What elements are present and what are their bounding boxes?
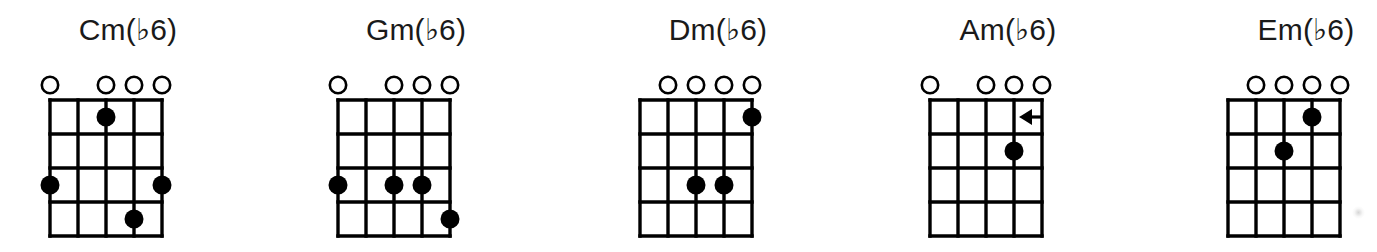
chord-diagram-card: Cm(♭6) [38, 0, 218, 252]
chord-name-label: Am(♭6) [918, 12, 1098, 47]
fretted-note-dot [743, 108, 762, 127]
open-string-circle-icon [660, 77, 676, 93]
fretted-note-dot [329, 176, 348, 195]
slide-arrow-icon [1019, 109, 1042, 125]
fretboard-diagram [1216, 68, 1377, 248]
arrow-head [1019, 109, 1032, 125]
fretted-note-dot [97, 108, 116, 127]
fretted-note-dot [1005, 142, 1024, 161]
open-string-circle-icon [414, 77, 430, 93]
open-string-circle-icon [716, 77, 732, 93]
open-string-circle-icon [1034, 77, 1050, 93]
fretted-note-dot [413, 176, 432, 195]
chord-name-label: Dm(♭6) [628, 12, 808, 47]
open-string-circle-icon [1006, 77, 1022, 93]
chord-name-label: Em(♭6) [1216, 12, 1377, 47]
open-string-circle-icon [330, 77, 346, 93]
fretboard-grid [640, 100, 752, 236]
open-string-circle-icon [42, 77, 58, 93]
fretboard-diagram [38, 68, 218, 248]
open-string-circle-icon [442, 77, 458, 93]
open-string-circle-icon [386, 77, 402, 93]
open-string-circle-icon [978, 77, 994, 93]
chord-diagram-card: Dm(♭6) [628, 0, 808, 252]
open-string-circle-icon [1248, 77, 1264, 93]
fretboard-grid [1228, 100, 1340, 236]
fretboard-diagram [326, 68, 506, 248]
scan-artifact-speck [1352, 206, 1365, 219]
chord-name-label: Gm(♭6) [326, 12, 506, 47]
open-string-circle-icon [744, 77, 760, 93]
fretted-note-dot [441, 210, 460, 229]
fretted-note-dot [1303, 108, 1322, 127]
chord-name-label: Cm(♭6) [38, 12, 218, 47]
open-string-circle-icon [688, 77, 704, 93]
fretboard-diagram [918, 68, 1098, 248]
fretted-note-dot [715, 176, 734, 195]
open-string-circle-icon [154, 77, 170, 93]
chord-chart-sheet: Cm(♭6)Gm(♭6)Dm(♭6)Am(♭6)Em(♭6) [0, 0, 1377, 252]
fretted-note-dot [1275, 142, 1294, 161]
open-string-circle-icon [126, 77, 142, 93]
open-string-circle-icon [1304, 77, 1320, 93]
chord-diagram-card: Gm(♭6) [326, 0, 506, 252]
fretted-note-dot [153, 176, 172, 195]
open-string-circle-icon [922, 77, 938, 93]
fretboard-diagram [628, 68, 808, 248]
fretboard-grid [338, 100, 450, 236]
chord-diagram-card: Am(♭6) [918, 0, 1098, 252]
open-string-circle-icon [1276, 77, 1292, 93]
fretted-note-dot [385, 176, 404, 195]
open-string-circle-icon [1332, 77, 1348, 93]
fretted-note-dot [125, 210, 144, 229]
open-string-circle-icon [98, 77, 114, 93]
fretted-note-dot [687, 176, 706, 195]
fretted-note-dot [41, 176, 60, 195]
